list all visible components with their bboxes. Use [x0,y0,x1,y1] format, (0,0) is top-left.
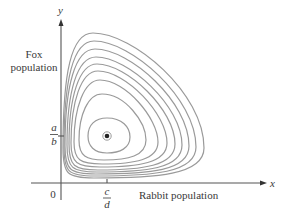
y-tick-numerator: a [51,121,57,133]
x-axis-label: Rabbit population [139,189,219,201]
orbit-6 [67,57,182,172]
y-axis-symbol: y [57,4,63,16]
x-axis-symbol: x [269,177,275,189]
orbit-2 [79,94,146,160]
orbit-3 [74,80,158,164]
y-axis-label-line2: population [10,61,58,73]
y-tick-denominator: b [51,135,57,147]
phase-diagram: y x Fox population Rabbit population 0 a… [0,0,285,218]
y-axis-arrow-icon [59,19,64,26]
x-tick-numerator: c [105,185,110,197]
origin-label: 0 [50,188,56,200]
orbits [63,33,204,178]
x-axis-arrow-icon [260,181,267,186]
x-tick-denominator: d [104,198,110,210]
y-axis-label-line1: Fox [25,48,43,60]
equilibrium-point [105,134,110,139]
